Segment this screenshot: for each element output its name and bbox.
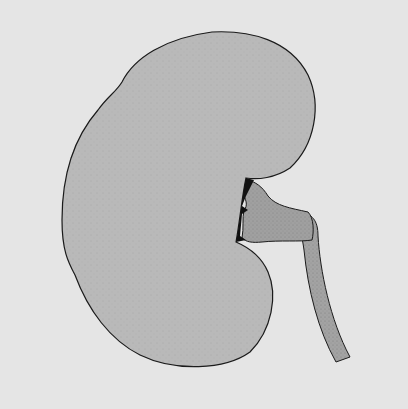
- illustration-canvas: [0, 0, 408, 409]
- kidney-illustration: [0, 0, 408, 409]
